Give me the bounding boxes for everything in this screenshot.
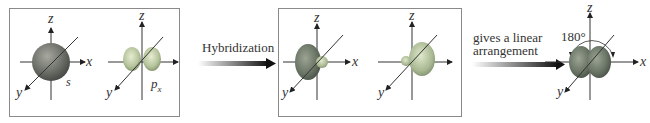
orbital-diagram [0,0,650,123]
px-orbital-label: px [151,76,162,94]
z-axis-label: z [139,8,144,24]
x-axis-label: x [86,54,92,70]
px-orbital [108,22,178,100]
z-axis-label: z [587,0,592,16]
s-orbital-label: s [66,75,71,90]
y-axis-label: y [16,85,22,101]
z-axis-label: z [409,8,414,24]
angle-label: 180° [561,29,586,45]
y-axis-label: y [106,85,112,101]
z-axis-label: z [48,11,53,27]
s-orbital [20,28,85,100]
y-axis-label: y [378,85,384,101]
z-axis-label: z [314,10,319,26]
hybridization-label: Hybridization [202,41,274,54]
y-axis-label: y [557,84,563,100]
linear-arrangement-label-line2: arrangement [473,44,538,57]
linear-arrow [472,62,558,67]
sp-hybrid-orbital-1 [283,24,350,100]
x-axis-label: x [640,54,646,70]
x-axis-label: x [352,54,358,70]
hybridization-arrow [198,61,268,66]
sp-hybrid-orbital-2 [378,22,452,100]
y-axis-label: y [282,85,288,101]
